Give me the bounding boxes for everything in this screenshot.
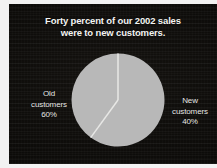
pie-label-old-customers-line-2: customers — [22, 100, 76, 111]
chart-title-line-2: were to new customers. — [23, 27, 203, 39]
pie-label-new-customers-line-2: customers — [161, 107, 217, 118]
pie-chart-svg — [70, 52, 166, 148]
pie-label-old-customers-line-1: Old — [22, 89, 76, 100]
pie-label-new-customers: New customers 40% — [161, 96, 217, 128]
pie-label-old-customers-percent: 60% — [22, 110, 76, 121]
chart-title: Forty percent of our 2002 sales were to … — [9, 15, 217, 38]
pie-chart — [70, 52, 166, 148]
slide-panel: Forty percent of our 2002 sales were to … — [9, 4, 217, 164]
chart-title-line-1: Forty percent of our 2002 sales — [23, 15, 203, 27]
pie-label-old-customers: Old customers 60% — [22, 89, 76, 121]
slide-frame: Forty percent of our 2002 sales were to … — [0, 0, 217, 168]
pie-label-new-customers-percent: 40% — [161, 117, 217, 128]
pie-label-new-customers-line-1: New — [161, 96, 217, 107]
